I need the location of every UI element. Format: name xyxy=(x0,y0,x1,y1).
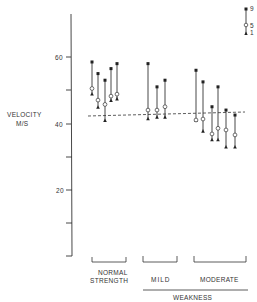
p5-circle-marker xyxy=(210,132,214,136)
reference-dashed-line xyxy=(88,112,245,116)
p9-square-marker xyxy=(225,109,228,112)
y-tick-60: 60 xyxy=(55,54,63,61)
p9-square-marker xyxy=(217,85,220,88)
p9-square-marker xyxy=(156,85,159,88)
p1-triangle-marker xyxy=(115,97,119,101)
p1-triangle-marker xyxy=(233,145,237,149)
p1-triangle-marker xyxy=(201,129,205,133)
p5-circle-marker xyxy=(146,108,150,112)
p9-square-marker xyxy=(110,67,113,70)
p1-triangle-marker xyxy=(163,115,167,119)
y-tick-20: 20 xyxy=(56,187,64,194)
p5-circle-marker xyxy=(233,133,237,137)
y-axis xyxy=(66,14,72,256)
legend-circle-marker xyxy=(244,23,248,27)
p9-square-marker xyxy=(97,72,100,75)
p1-triangle-marker xyxy=(210,138,214,142)
legend-label-1: 1 xyxy=(250,29,254,36)
super-category-label-weakness: WEAKNESS xyxy=(173,294,212,301)
p9-square-marker xyxy=(202,80,205,83)
legend-square-marker xyxy=(245,8,248,11)
p1-triangle-marker xyxy=(146,117,150,121)
p9-square-marker xyxy=(195,69,198,72)
p5-circle-marker xyxy=(103,103,107,107)
y-tick-40: 40 xyxy=(55,121,63,128)
legend-label-9: 9 xyxy=(250,5,254,12)
category-label-mild: MILD xyxy=(151,276,171,283)
p9-square-marker xyxy=(116,62,119,65)
bracket-mild xyxy=(143,256,177,262)
p1-triangle-marker xyxy=(90,92,94,96)
category-label-strength: STRENGTH xyxy=(90,277,128,284)
legend-label-5: 5 xyxy=(250,22,254,29)
velocity-chart xyxy=(0,0,257,302)
p5-circle-marker xyxy=(155,108,159,112)
p9-square-marker xyxy=(211,105,214,108)
p5-circle-marker xyxy=(216,126,220,130)
p9-square-marker xyxy=(147,62,150,65)
p5-circle-marker xyxy=(201,117,205,121)
p1-triangle-marker xyxy=(224,145,228,149)
y-axis-label-units: M/S xyxy=(16,120,28,127)
p5-circle-marker xyxy=(163,105,167,109)
p1-triangle-marker xyxy=(216,138,220,142)
p1-triangle-marker xyxy=(96,105,100,109)
legend xyxy=(244,8,248,36)
range-bars xyxy=(90,60,237,148)
legend-triangle-marker xyxy=(244,32,247,36)
p9-square-marker xyxy=(91,60,94,63)
p5-circle-marker xyxy=(90,87,94,91)
p5-circle-marker xyxy=(115,92,119,96)
p1-triangle-marker xyxy=(103,118,107,122)
p1-triangle-marker xyxy=(155,115,159,119)
bracket-moderate xyxy=(194,256,246,262)
category-label-moderate: MODERATE xyxy=(200,276,239,283)
p5-circle-marker xyxy=(96,98,100,102)
p9-square-marker xyxy=(234,114,237,117)
p1-triangle-marker xyxy=(109,99,113,103)
p5-circle-marker xyxy=(224,128,228,132)
p5-circle-marker xyxy=(194,118,198,122)
y-axis-label-velocity: VELOCITY xyxy=(7,111,42,118)
p5-circle-marker xyxy=(109,94,113,98)
p9-square-marker xyxy=(164,79,167,82)
bracket-normal xyxy=(92,257,126,262)
category-label-normal: NORMAL xyxy=(98,269,128,276)
p9-square-marker xyxy=(104,79,107,82)
